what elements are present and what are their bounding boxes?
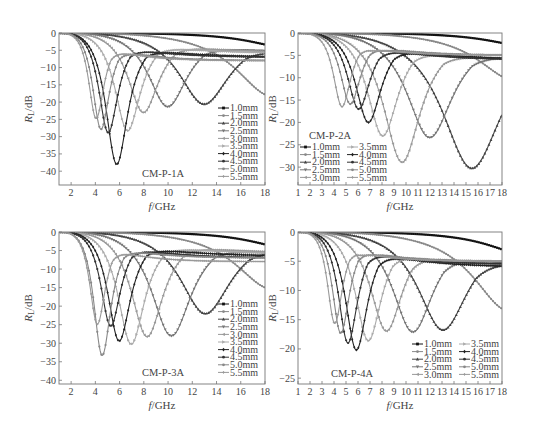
y-tick-label: 0 — [290, 227, 295, 238]
legend-item-5.5mm: 5.5mm — [230, 367, 258, 378]
y-tick-label: −20 — [40, 301, 56, 312]
legend-item-5.5mm: 5.5mm — [471, 369, 499, 380]
x-axis-title: f/GHz — [387, 200, 414, 212]
series-line-1.5mm — [59, 33, 265, 95]
y-tick-label: −35 — [40, 148, 56, 159]
x-tick-label: 1 — [296, 386, 301, 397]
chart-cm-p-4a: 1234567891011121314151617180−5−10−15−20−… — [266, 227, 507, 412]
x-tick-label: 9 — [392, 386, 397, 397]
y-tick-label: 0 — [51, 227, 56, 238]
y-tick-label: −10 — [40, 264, 56, 275]
y-tick-label: −5 — [284, 256, 295, 267]
chart-cm-p-1a: 246810121416180−5−10−15−20−25−30−35−40f/… — [22, 28, 270, 213]
x-tick-label: 3 — [320, 386, 325, 397]
y-tick-label: −40 — [40, 375, 56, 386]
x-tick-label: 12 — [425, 187, 435, 198]
x-tick-label: 8 — [141, 187, 146, 198]
x-tick-label: 8 — [141, 386, 146, 397]
series-line-3.5mm — [298, 33, 502, 136]
x-tick-label: 11 — [413, 187, 423, 198]
legend-item-5.5mm: 5.5mm — [359, 172, 387, 183]
x-tick-label: 2 — [308, 187, 313, 198]
x-tick-label: 11 — [413, 386, 423, 397]
y-axis-title: RL/dB — [22, 95, 36, 124]
x-tick-label: 2 — [69, 386, 74, 397]
legend: 1.0mm1.5mm2.0mm2.5mm3.0mm3.5mm4.0mm4.5mm… — [412, 338, 499, 379]
y-tick-label: −10 — [40, 62, 56, 73]
x-tick-label: 3 — [320, 187, 325, 198]
x-tick-label: 6 — [117, 187, 122, 198]
y-tick-label: −5 — [45, 245, 56, 256]
y-tick-label: 0 — [51, 28, 56, 39]
x-tick-label: 13 — [437, 386, 447, 397]
y-tick-label: −10 — [279, 72, 295, 83]
x-tick-label: 4 — [332, 386, 337, 397]
series-line-2.5mm — [298, 33, 502, 138]
y-tick-label: −10 — [279, 285, 295, 296]
series-line-5.0mm — [298, 232, 502, 333]
y-axis-title: RL/dB — [22, 294, 36, 323]
x-tick-label: 4 — [93, 187, 98, 198]
y-tick-label: −35 — [40, 356, 56, 367]
y-tick-label: −20 — [279, 117, 295, 128]
x-tick-label: 15 — [461, 187, 471, 198]
x-tick-label: 10 — [163, 386, 173, 397]
y-tick-label: −15 — [279, 95, 295, 106]
x-tick-label: 16 — [473, 386, 483, 397]
x-tick-label: 10 — [163, 187, 173, 198]
x-tick-label: 14 — [449, 187, 459, 198]
series-line-3.0mm — [298, 232, 502, 331]
x-tick-label: 4 — [93, 386, 98, 397]
series-line-2.0mm — [298, 232, 502, 330]
y-tick-label: 0 — [290, 28, 295, 39]
x-tick-label: 7 — [368, 187, 373, 198]
series-group — [298, 231, 503, 352]
chart-canvas: 246810121416180−5−10−15−20−25−30−35−40f/… — [0, 0, 537, 427]
x-tick-label: 14 — [212, 187, 222, 198]
x-tick-label: 12 — [425, 386, 435, 397]
legend: 1.0mm1.5mm2.0mm2.5mm3.0mm3.5mm4.0mm4.5mm… — [218, 102, 258, 181]
y-tick-label: −30 — [40, 131, 56, 142]
legend: 1.0mm1.5mm2.0mm2.5mm3.0mm3.5mm4.0mm4.5mm… — [300, 141, 387, 182]
chart-cm-p-3a: 246810121416180−5−10−15−20−25−30−35−40f/… — [22, 227, 270, 412]
y-tick-label: −25 — [279, 373, 295, 384]
x-tick-label: 1 — [296, 187, 301, 198]
x-tick-label: 6 — [356, 187, 361, 198]
x-tick-label: 6 — [356, 386, 361, 397]
y-tick-label: −25 — [40, 319, 56, 330]
sample-label: CM-P-4A — [331, 368, 373, 379]
legend-item-3.0mm: 3.0mm — [312, 172, 340, 183]
y-tick-label: −5 — [45, 45, 56, 56]
y-tick-label: −20 — [279, 343, 295, 354]
chart-cm-p-2a: 1234567891011121314151617180−5−10−15−20−… — [266, 28, 507, 213]
series-line-2.5mm — [298, 232, 502, 332]
x-tick-label: 14 — [212, 386, 222, 397]
sample-label: CM-P-2A — [309, 130, 351, 141]
x-tick-label: 15 — [461, 386, 471, 397]
x-tick-label: 7 — [368, 386, 373, 397]
y-axis-title: RL/dB — [266, 95, 280, 124]
x-axis-title: f/GHz — [387, 399, 414, 411]
y-tick-label: −30 — [40, 338, 56, 349]
x-tick-label: 9 — [392, 187, 397, 198]
y-tick-label: −30 — [279, 162, 295, 173]
y-tick-label: −15 — [40, 282, 56, 293]
x-tick-label: 10 — [401, 187, 411, 198]
y-tick-label: −25 — [40, 114, 56, 125]
y-tick-label: −25 — [279, 139, 295, 150]
x-tick-label: 14 — [449, 386, 459, 397]
x-tick-label: 8 — [380, 386, 385, 397]
x-axis-title: f/GHz — [149, 399, 176, 411]
x-tick-label: 12 — [187, 187, 197, 198]
x-tick-label: 2 — [308, 386, 313, 397]
y-tick-label: −15 — [40, 79, 56, 90]
x-tick-label: 18 — [497, 187, 507, 198]
sample-label: CM-P-3A — [142, 367, 184, 378]
x-tick-label: 5 — [344, 187, 349, 198]
x-tick-label: 8 — [380, 187, 385, 198]
x-tick-label: 16 — [473, 187, 483, 198]
x-tick-label: 13 — [437, 187, 447, 198]
x-tick-label: 18 — [497, 386, 507, 397]
x-axis-title: f/GHz — [149, 200, 176, 212]
x-tick-label: 5 — [344, 386, 349, 397]
